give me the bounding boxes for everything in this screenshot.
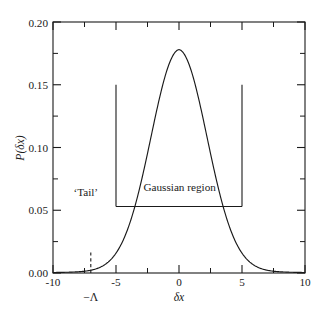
y-tick-label-4: 0.20	[28, 17, 48, 29]
x-tick-label-4: 10	[299, 276, 311, 288]
plot-frame	[53, 22, 305, 273]
y-tick-label-2: 0.10	[28, 142, 48, 154]
tail-annotation-label: ‘Tail’	[73, 186, 98, 198]
probability-distribution-chart: 0.00 0.05 0.10 0.15 0.20 -10 -5 0 5 10 δ…	[0, 0, 323, 316]
y-axis-major-ticks	[53, 22, 61, 273]
chart-annotations: ‘Tail’ Gaussian region −Λ	[73, 181, 216, 304]
x-tick-label-2: 0	[176, 276, 182, 288]
x-tick-label-3: 5	[239, 276, 245, 288]
y-axis-title: P(δx)	[14, 135, 27, 161]
figure-container: 0.00 0.05 0.10 0.15 0.20 -10 -5 0 5 10 δ…	[0, 0, 323, 316]
region-markers	[91, 85, 242, 273]
x-axis-title: δx	[174, 291, 185, 304]
x-tick-label-1: -5	[111, 276, 121, 288]
y-tick-label-3: 0.15	[28, 79, 48, 91]
x-tick-label-0: -10	[46, 276, 61, 288]
y-axis-tick-labels: 0.00 0.05 0.10 0.15 0.20	[28, 17, 48, 280]
x-axis-tick-labels: -10 -5 0 5 10	[46, 276, 311, 288]
y-axis-right-ticks	[297, 22, 305, 273]
gaussian-region-annotation-label: Gaussian region	[143, 181, 216, 193]
y-tick-label-1: 0.05	[28, 204, 48, 216]
probability-curve	[53, 50, 305, 273]
distribution-curve-group	[53, 50, 305, 273]
lambda-cutoff-axis-label: −Λ	[83, 291, 99, 304]
x-axis-top-ticks	[53, 22, 305, 30]
axes-border	[53, 22, 305, 273]
